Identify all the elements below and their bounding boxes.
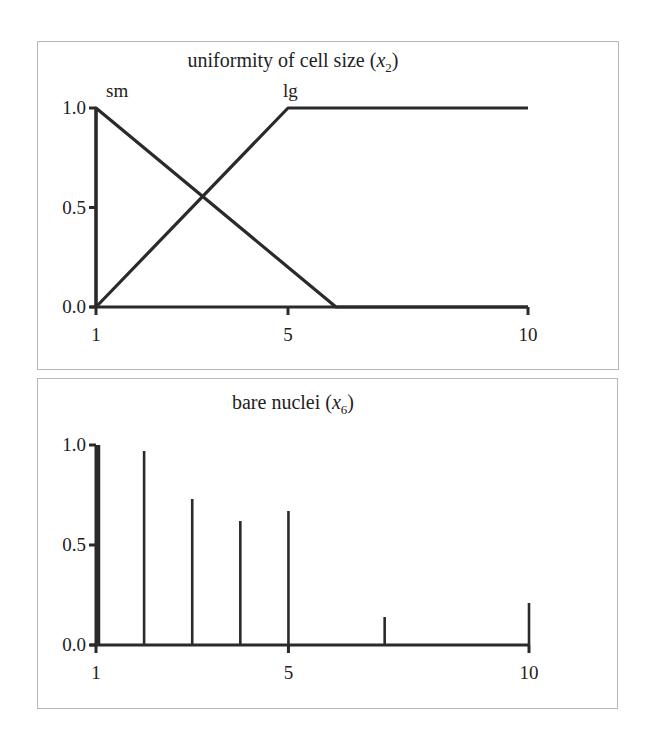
y-tick-label: 0.0 bbox=[62, 296, 86, 317]
x-tick-label: 1 bbox=[91, 662, 101, 683]
y-tick-label: 0.0 bbox=[62, 634, 86, 655]
y-tick-label: 1.0 bbox=[62, 97, 86, 118]
y-tick-label: 0.5 bbox=[62, 534, 86, 555]
y-tick-label: 1.0 bbox=[62, 434, 86, 455]
line-chart: uniformity of cell size (x2)0.00.51.0151… bbox=[38, 42, 620, 371]
chart-title: uniformity of cell size (x2) bbox=[188, 49, 399, 75]
chart-panel-bare-nuclei: bare nuclei (x6)0.00.51.01510 bbox=[37, 378, 618, 709]
x-tick-label: 1 bbox=[91, 324, 101, 345]
x-tick-label: 10 bbox=[520, 662, 539, 683]
x-tick-label: 5 bbox=[283, 324, 293, 345]
bar-chart: bare nuclei (x6)0.00.51.01510 bbox=[38, 379, 619, 710]
x-tick-label: 5 bbox=[284, 662, 294, 683]
series-sm-line bbox=[96, 108, 528, 307]
y-tick-label: 0.5 bbox=[62, 197, 86, 218]
label-lg: lg bbox=[283, 80, 298, 101]
chart-panel-uniformity-cell-size: uniformity of cell size (x2)0.00.51.0151… bbox=[37, 41, 619, 370]
label-sm: sm bbox=[106, 80, 128, 101]
x-tick-label: 10 bbox=[519, 324, 538, 345]
series-lg-line bbox=[96, 108, 528, 307]
chart-title: bare nuclei (x6) bbox=[232, 391, 354, 417]
